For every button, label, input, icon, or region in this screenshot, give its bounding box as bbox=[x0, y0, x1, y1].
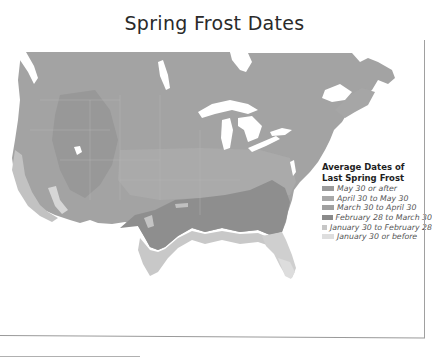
legend-label: January 30 or before bbox=[337, 232, 417, 241]
legend-item-jan30-or-before: January 30 or before bbox=[338, 232, 432, 242]
legend-title-line1: Average Dates of bbox=[322, 162, 432, 173]
legend-label: February 28 to March 30 bbox=[336, 213, 432, 222]
legend-swatch bbox=[322, 196, 334, 201]
legend-title-line2: Last Spring Frost bbox=[322, 173, 432, 184]
legend-label: January 30 to February 28 bbox=[330, 223, 432, 232]
legend-item-march30-april30: March 30 to April 30 bbox=[338, 203, 432, 213]
legend-swatch bbox=[322, 215, 333, 220]
map-legend: Average Dates of Last Spring Frost May 3… bbox=[322, 162, 432, 242]
legend-label: March 30 to April 30 bbox=[337, 203, 416, 212]
page-edge-line bbox=[0, 356, 140, 357]
legend-item-april30-may30: April 30 to May 30 bbox=[338, 194, 432, 204]
legend-item-jan30-feb28: January 30 to February 28 bbox=[338, 222, 432, 232]
legend-swatch bbox=[322, 225, 327, 230]
legend-item-feb28-march30: February 28 to March 30 bbox=[338, 213, 432, 223]
frame-border-right bbox=[424, 40, 425, 338]
legend-label: May 30 or after bbox=[337, 184, 397, 193]
legend-swatch bbox=[322, 234, 334, 239]
legend-swatch bbox=[322, 186, 334, 191]
legend-swatch bbox=[322, 205, 334, 210]
legend-label: April 30 to May 30 bbox=[337, 194, 409, 203]
legend-item-may30-or-after: May 30 or after bbox=[338, 184, 432, 194]
